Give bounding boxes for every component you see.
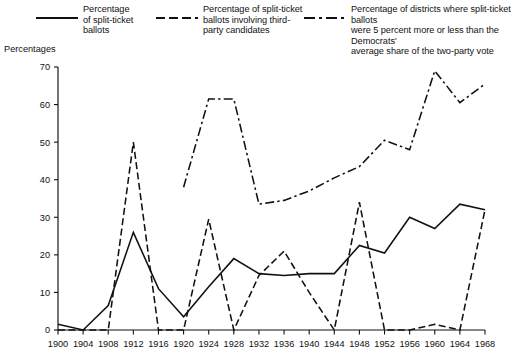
y-axis-tick-label: 10	[40, 288, 50, 298]
y-axis-tick-label: 0	[45, 325, 50, 335]
y-axis: 010203040506070	[40, 62, 58, 335]
line-chart: 010203040506070 190019041908191219161920…	[0, 0, 519, 358]
x-axis-tick-label: 1904	[73, 339, 93, 349]
x-axis-tick-label: 1924	[198, 339, 218, 349]
x-axis-tick-label: 1912	[123, 339, 143, 349]
y-axis-tick-label: 30	[40, 213, 50, 223]
y-axis-tick-label: 40	[40, 175, 50, 185]
x-axis-tick-label: 1952	[374, 339, 394, 349]
y-axis-tick-label: 50	[40, 138, 50, 148]
x-axis-tick-label: 1948	[349, 339, 369, 349]
x-axis: 1900190419081912191619201924192819321936…	[48, 330, 495, 349]
series-line-1	[58, 142, 485, 330]
y-axis-tick-label: 20	[40, 250, 50, 260]
x-axis-tick-label: 1920	[173, 339, 193, 349]
x-axis-tick-label: 1928	[224, 339, 244, 349]
x-axis-tick-label: 1944	[324, 339, 344, 349]
x-axis-tick-label: 1916	[148, 339, 168, 349]
x-axis-tick-label: 1956	[399, 339, 419, 349]
series-layer	[58, 71, 485, 330]
chart-canvas: 010203040506070 190019041908191219161920…	[0, 0, 519, 358]
y-axis-tick-label: 60	[40, 100, 50, 110]
x-axis-tick-label: 1968	[475, 339, 495, 349]
x-axis-tick-label: 1900	[48, 339, 68, 349]
y-axis-tick-label: 70	[40, 62, 50, 72]
x-axis-tick-label: 1932	[249, 339, 269, 349]
series-line-2	[184, 71, 485, 204]
x-axis-tick-label: 1964	[450, 339, 470, 349]
x-axis-tick-label: 1960	[425, 339, 445, 349]
x-axis-tick-label: 1940	[299, 339, 319, 349]
x-axis-tick-label: 1936	[274, 339, 294, 349]
x-axis-tick-label: 1908	[98, 339, 118, 349]
